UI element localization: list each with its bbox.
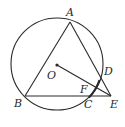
label-e: E	[109, 98, 118, 111]
label-a: A	[65, 6, 74, 19]
segment-ab	[25, 22, 70, 96]
center-point-o	[55, 63, 58, 66]
label-d: D	[103, 65, 113, 78]
label-b: B	[13, 97, 22, 110]
label-f: F	[79, 83, 88, 96]
geometry-diagram: A O D F B C E	[0, 0, 125, 127]
label-o: O	[47, 69, 56, 82]
label-c: C	[84, 98, 93, 111]
